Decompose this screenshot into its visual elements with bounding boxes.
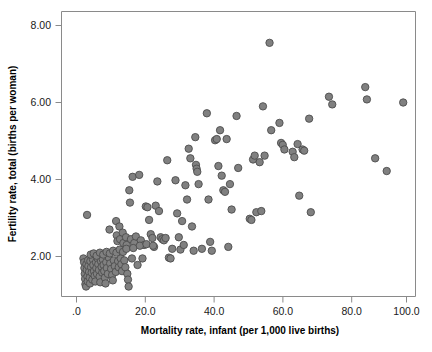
scatter-point <box>268 127 275 134</box>
scatter-point <box>124 276 131 283</box>
scatter-point <box>226 180 233 187</box>
scatter-point <box>213 135 220 142</box>
scatter-point <box>149 242 156 249</box>
scatter-point <box>126 199 133 206</box>
scatter-point <box>296 192 303 199</box>
scatter-point <box>149 234 156 241</box>
scatter-point <box>235 164 242 171</box>
scatter-point <box>221 188 228 195</box>
scatter-point <box>183 196 190 203</box>
scatter-point <box>362 83 369 90</box>
scatter-point <box>301 147 308 154</box>
scatter-point <box>259 103 266 110</box>
scatter-point <box>187 155 194 162</box>
scatter-point <box>106 226 113 233</box>
scatter-point <box>261 152 268 159</box>
scatter-point <box>145 216 152 223</box>
scatter-point <box>173 210 180 217</box>
scatter-point <box>281 146 288 153</box>
scatter-point <box>126 187 133 194</box>
x-tick-label-20: 20.0 <box>135 305 156 317</box>
scatter-point <box>206 238 213 245</box>
scatter-point <box>175 234 182 241</box>
x-tick-label-60: 60.0 <box>273 305 294 317</box>
x-tick-label-80: 80.0 <box>341 305 362 317</box>
y-tick-label-6: 6.00 <box>31 96 52 108</box>
x-tick-label-100: 100.0 <box>393 305 419 317</box>
scatter-point <box>203 110 210 117</box>
scatter-point <box>128 255 135 262</box>
scatter-point <box>136 171 143 178</box>
scatter-point <box>190 247 197 254</box>
scatter-point <box>266 39 273 46</box>
scatter-point <box>258 207 265 214</box>
scatter-point <box>291 153 298 160</box>
scatter-point <box>155 207 162 214</box>
scatter-point <box>228 206 235 213</box>
y-tick-label-2: 2.00 <box>31 250 52 262</box>
scatter-point <box>162 234 169 241</box>
y-axis-title: Fertility rate, total (births per woman) <box>7 66 18 243</box>
scatter-point <box>195 180 202 187</box>
scatter-point <box>134 261 141 268</box>
y-tick-label-8: 8.00 <box>31 19 52 31</box>
scatter-point <box>251 152 258 159</box>
x-tick-label-40: 40.0 <box>204 305 225 317</box>
scatter-point <box>154 178 161 185</box>
y-tick-label-4: 4.00 <box>31 173 52 185</box>
x-tick-label-0: .0 <box>72 305 81 317</box>
scatter-point <box>307 209 314 216</box>
scatter-point <box>164 157 171 164</box>
scatter-point <box>225 243 232 250</box>
scatter-point <box>180 241 187 248</box>
scatter-point <box>144 204 151 211</box>
scatter-point <box>215 162 222 169</box>
scatter-point <box>192 133 199 140</box>
scatter-point <box>102 280 109 287</box>
plot-svg: 8.00 6.00 4.00 2.00 .0 20.0 40.0 60.0 80… <box>0 0 432 352</box>
scatter-point <box>109 277 116 284</box>
scatter-point <box>329 101 336 108</box>
scatter-point <box>172 177 179 184</box>
scatter-point <box>305 115 312 122</box>
scatter-point <box>205 196 212 203</box>
scatter-point <box>198 245 205 252</box>
scatter-point <box>123 245 130 252</box>
scatter-point <box>208 247 215 254</box>
scatter-point <box>216 127 223 134</box>
scatter-point <box>121 257 128 264</box>
scatter-point <box>139 255 146 262</box>
scatter-plot-figure: 8.00 6.00 4.00 2.00 .0 20.0 40.0 60.0 80… <box>0 0 432 352</box>
scatter-point <box>276 119 283 126</box>
scatter-point <box>178 217 185 224</box>
scatter-point <box>233 112 240 119</box>
scatter-point <box>194 168 201 175</box>
scatter-point <box>325 93 332 100</box>
scatter-point <box>223 135 230 142</box>
scatter-point <box>371 155 378 162</box>
scatter-point <box>182 182 189 189</box>
scatter-point <box>218 172 225 179</box>
scatter-point <box>248 216 255 223</box>
scatter-point <box>185 145 192 152</box>
scatter-point <box>169 245 176 252</box>
scatter-point <box>188 223 195 230</box>
scatter-point <box>125 283 132 290</box>
scatter-point <box>167 255 174 262</box>
figure-background <box>0 0 432 352</box>
scatter-point <box>256 158 263 165</box>
scatter-point <box>400 99 407 106</box>
scatter-point <box>383 167 390 174</box>
scatter-point <box>83 211 90 218</box>
x-axis-title: Mortality rate, infant (per 1,000 live b… <box>141 325 339 336</box>
scatter-point <box>363 96 370 103</box>
